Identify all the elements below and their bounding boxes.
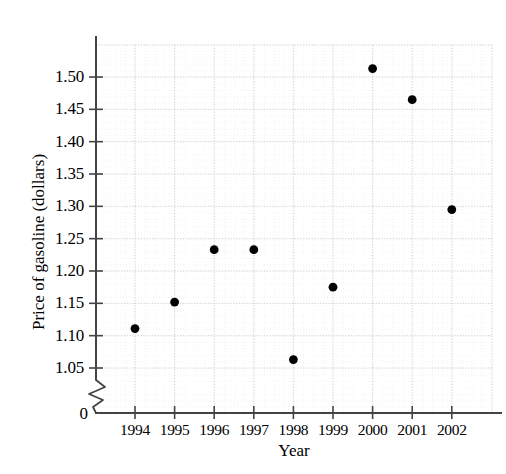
data-point[interactable] xyxy=(368,64,377,73)
data-point[interactable] xyxy=(408,95,417,104)
y-axis-title: Price of gasoline (dollars) xyxy=(29,107,49,377)
data-point[interactable] xyxy=(289,355,298,364)
data-point[interactable] xyxy=(329,283,338,292)
y-axis-origin-label: 0 xyxy=(58,404,88,424)
x-axis-tick-label: 2002 xyxy=(428,422,476,438)
y-axis-tick-label: 1.50 xyxy=(20,68,84,85)
x-axis-title: Year xyxy=(96,441,492,461)
data-point[interactable] xyxy=(170,298,179,307)
scatter-chart-figure: 1.501.451.401.351.301.251.201.151.101.05… xyxy=(0,0,506,474)
data-point[interactable] xyxy=(249,245,258,254)
data-point[interactable] xyxy=(447,205,456,214)
data-point[interactable] xyxy=(131,324,140,333)
y-axis-break-zigzag xyxy=(89,380,105,413)
data-point[interactable] xyxy=(210,245,219,254)
